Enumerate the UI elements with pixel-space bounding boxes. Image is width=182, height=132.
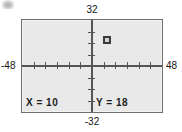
- y-axis-tick: [88, 101, 95, 102]
- x-axis-tick: [45, 62, 46, 69]
- y-axis-tick: [88, 89, 95, 90]
- x-axis-tick: [57, 62, 58, 69]
- x-coordinate-readout: X = 10: [26, 97, 58, 108]
- y-coordinate-readout: Y = 18: [96, 97, 128, 108]
- y-axis-tick: [88, 55, 95, 56]
- graph-viewport[interactable]: X = 10 Y = 18: [21, 19, 163, 113]
- x-axis-tick: [69, 62, 70, 69]
- y-axis: [91, 20, 93, 112]
- y-min-bound-label: -32: [85, 116, 99, 127]
- x-min-bound-label: -48: [1, 60, 15, 71]
- x-axis-tick: [104, 62, 105, 69]
- y-axis-tick: [88, 32, 95, 33]
- y-max-bound-label: 32: [86, 4, 97, 15]
- y-axis-tick: [88, 78, 95, 79]
- x-axis-tick: [34, 62, 35, 69]
- y-axis-tick: [88, 43, 95, 44]
- calculator-screen: 32 -48 48 -32 X = 10 Y = 18: [0, 0, 182, 132]
- x-axis-tick: [80, 62, 81, 69]
- scan-artifact: [2, 0, 14, 9]
- x-max-bound-label: 48: [166, 60, 177, 71]
- trace-cursor-marker[interactable]: [103, 36, 111, 44]
- x-axis-tick: [150, 62, 151, 69]
- x-axis-tick: [139, 62, 140, 69]
- x-axis-tick: [115, 62, 116, 69]
- x-axis-tick: [127, 62, 128, 69]
